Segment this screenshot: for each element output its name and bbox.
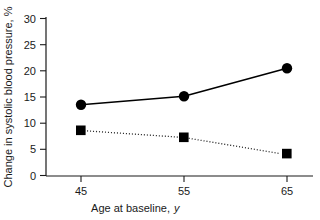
series-solid-circle-point-45 <box>76 100 86 110</box>
series-solid-circle-point-65 <box>282 63 292 73</box>
x-tick-label-55: 55 <box>178 185 190 197</box>
y-axis-tick-labels: 0 5 10 15 20 25 30 <box>24 13 36 182</box>
y-tick-label-20: 20 <box>24 65 36 77</box>
x-axis-title-main: Age at baseline, <box>91 202 170 214</box>
x-axis-ticks <box>81 176 287 182</box>
x-tick-label-45: 45 <box>75 185 87 197</box>
series-dotted-square-point-65 <box>282 149 292 159</box>
y-tick-label-25: 25 <box>24 39 36 51</box>
series-dotted-square-point-45 <box>76 126 86 136</box>
y-axis-title: Change in systolic blood pressure, % <box>2 6 14 187</box>
series-dotted-square <box>76 126 292 159</box>
y-tick-label-0: 0 <box>30 170 36 182</box>
y-axis-ticks <box>40 19 46 176</box>
x-tick-label-65: 65 <box>281 185 293 197</box>
chart-figure: 0 5 10 15 20 25 30 45 55 65 Age at basel… <box>0 0 320 220</box>
series-solid-circle <box>76 63 292 110</box>
y-tick-label-30: 30 <box>24 13 36 25</box>
y-tick-label-15: 15 <box>24 91 36 103</box>
x-axis-tick-labels: 45 55 65 <box>75 185 293 197</box>
x-axis-title-unit: y <box>173 202 181 214</box>
y-tick-label-10: 10 <box>24 117 36 129</box>
x-axis-title: Age at baseline, y <box>91 202 181 214</box>
y-tick-label-5: 5 <box>30 143 36 155</box>
chart-plot-area: 0 5 10 15 20 25 30 45 55 65 Age at basel… <box>0 0 320 220</box>
series-solid-circle-point-55 <box>179 91 189 101</box>
series-dotted-square-point-55 <box>179 133 189 143</box>
